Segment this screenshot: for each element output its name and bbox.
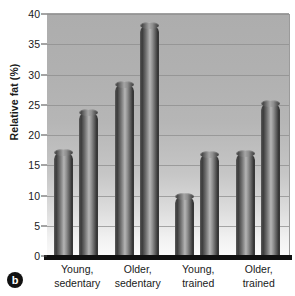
plot-border-right (289, 14, 290, 256)
x-group-label-line: Older, (229, 262, 290, 276)
x-group-label-line: Young, (168, 262, 229, 276)
y-tick-mark (41, 195, 47, 196)
x-group-label-line: Young, (47, 262, 108, 276)
bar-cap (236, 150, 255, 157)
bar-cap (261, 100, 280, 107)
y-tick-label: 15 (18, 159, 40, 171)
y-tick-label: 20 (18, 129, 40, 141)
gridline (47, 14, 289, 15)
bar (54, 152, 73, 256)
y-tick-label: 0 (18, 250, 40, 262)
bar (236, 153, 255, 256)
gridline (47, 105, 289, 106)
bar (200, 154, 219, 256)
bar (79, 112, 98, 256)
x-group-label-line: sedentary (47, 276, 108, 290)
gridline (47, 75, 289, 76)
gridline (47, 44, 289, 45)
bar-cap (175, 193, 194, 200)
y-tick-label: 25 (18, 99, 40, 111)
bar (261, 103, 280, 256)
y-tick-mark (41, 165, 47, 166)
y-tick-mark (41, 256, 47, 257)
plot-area (47, 14, 289, 256)
y-tick-mark (41, 44, 47, 45)
x-group-label-line: Older, (108, 262, 169, 276)
y-tick-mark (41, 225, 47, 226)
x-group-label: Older,sedentary (108, 262, 169, 290)
x-group-label: Young,sedentary (47, 262, 108, 290)
bar-cap (79, 109, 98, 116)
y-tick-mark (41, 135, 47, 136)
x-axis-line (44, 255, 292, 260)
y-tick-label: 35 (18, 38, 40, 50)
y-tick-label: 30 (18, 69, 40, 81)
y-tick-label: 10 (18, 190, 40, 202)
panel-letter-badge: b (7, 272, 23, 288)
y-tick-mark (41, 74, 47, 75)
x-group-label-line: trained (229, 276, 290, 290)
bar (175, 196, 194, 256)
y-tick-label: 5 (18, 220, 40, 232)
figure-panel-b: Relative fat (%) 0510152025303540 Young,… (0, 0, 295, 296)
y-axis-tick-labels: 0510152025303540 (18, 0, 40, 296)
x-group-label: Older,trained (229, 262, 290, 290)
x-axis-group-labels: Young,sedentaryOlder,sedentaryYoung,trai… (47, 262, 289, 296)
bar-cap (115, 81, 134, 88)
bar (140, 25, 159, 256)
y-tick-label: 40 (18, 8, 40, 20)
bar (115, 84, 134, 256)
x-group-label: Young,trained (168, 262, 229, 290)
bar-cap (140, 22, 159, 29)
y-tick-mark (41, 104, 47, 105)
x-group-label-line: trained (168, 276, 229, 290)
y-tick-mark (41, 14, 47, 15)
bar-cap (54, 149, 73, 156)
bar-cap (200, 151, 219, 158)
x-group-label-line: sedentary (108, 276, 169, 290)
